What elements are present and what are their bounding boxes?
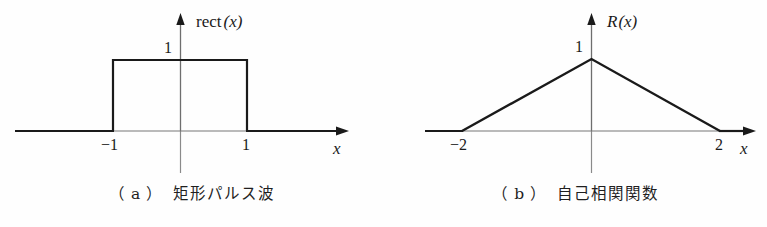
x-axis-arrowhead [336,126,349,135]
y-axis-label-func: R [607,12,617,31]
caption-a: （ a ）矩形パルス波 [0,186,384,203]
panel-rect-pulse: rect(x) 1 −1 1 x （ a ）矩形パルス波 [0,0,384,227]
y-tick-label-1: 1 [164,40,172,56]
caption-b: （ b ）自己相関関数 [384,186,767,203]
x-axis-label: x [333,140,341,157]
y-axis-arrowhead [176,13,184,25]
caption-b-text: 自己相関関数 [557,185,659,203]
caption-a-text: 矩形パルス波 [173,185,275,203]
panel-autocorrelation: R(x) 1 −2 2 x （ b ）自己相関関数 [384,0,767,227]
y-axis-label-func: rect [196,12,221,31]
x-tick-label-1: 1 [242,137,250,153]
x-tick-label-minus1: −1 [101,137,118,153]
caption-a-tag: （ a ） [109,185,163,203]
x-axis-arrowhead [743,126,756,135]
y-axis-label-rect: rect(x) [196,13,242,30]
x-tick-label-2: 2 [715,137,723,153]
x-axis-label: x [740,140,748,157]
figure-root: rect(x) 1 −1 1 x （ a ）矩形パルス波 [0,0,767,227]
y-axis-label-arg: (x) [618,12,637,31]
x-tick-label-minus2: −2 [450,137,467,153]
y-axis-label-arg: (x) [223,12,242,31]
y-axis-label-R: R(x) [607,13,637,30]
y-axis-arrowhead [587,13,595,25]
caption-b-tag: （ b ） [492,185,546,203]
y-tick-label-1: 1 [575,39,583,55]
